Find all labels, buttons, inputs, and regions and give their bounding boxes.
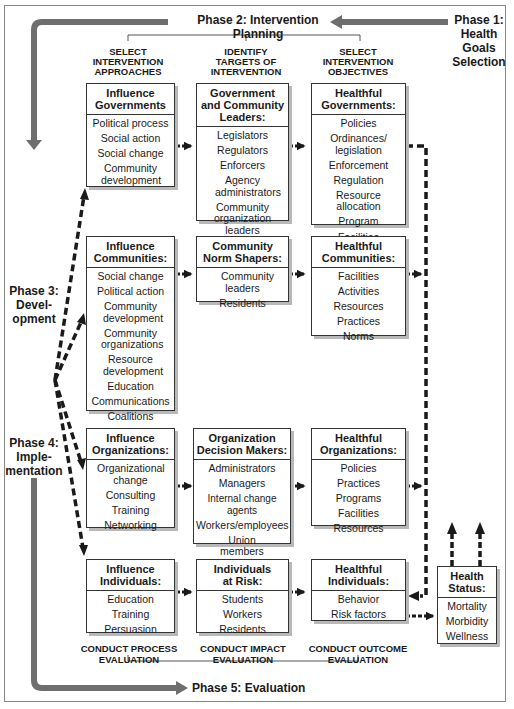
box-health-status: HealthStatus: Mortality Morbidity Wellne…	[437, 566, 497, 644]
box-title: HealthfulOrganizations:	[312, 429, 405, 460]
list-item: Social action	[89, 133, 172, 145]
list-item: Wellness	[440, 631, 494, 643]
list-item: Residents	[199, 624, 286, 636]
list-item: Facilities	[314, 508, 403, 520]
list-item: Consulting	[89, 490, 172, 502]
list-item: Policies	[314, 118, 403, 130]
list-item: Workers	[199, 609, 286, 621]
list-item: Enforcers	[199, 160, 286, 172]
box-title: InfluenceCommunities:	[87, 237, 174, 268]
phase-2-label: Phase 2: Intervention Planning	[183, 13, 333, 41]
footer-process-evaluation: CONDUCT PROCESS EVALUATION	[64, 643, 194, 665]
box-title: HealthStatus:	[438, 567, 496, 598]
list-item: Managers	[196, 478, 288, 490]
list-item: Political process	[89, 118, 172, 130]
footer-outcome-evaluation: CONDUCT OUTCOME EVALUATION	[293, 643, 423, 665]
list-item: Enforcement	[314, 160, 403, 172]
list-item: Coalitions	[89, 411, 172, 423]
column-header-targets: IDENTIFY TARGETS OF INTERVENTION	[191, 47, 301, 77]
list-item: Legislators	[199, 130, 286, 142]
list-item: Internal change agents	[196, 493, 288, 516]
box-gov-community-leaders: Governmentand CommunityLeaders: Legislat…	[196, 83, 289, 221]
phase-4-label: Phase 4: Imple- mentation	[2, 436, 66, 478]
phase-1-line: Phase 1:	[450, 13, 508, 27]
phase-4-line: Phase 4:	[2, 436, 66, 450]
box-title: HealthfulIndividuals:	[312, 560, 405, 591]
list-item: Program	[314, 216, 403, 228]
box-title: HealthfulCommunities:	[312, 237, 405, 268]
column-header-approaches: SELECT INTERVENTION APPROACHES	[73, 47, 183, 77]
list-item: Risk factors	[314, 609, 403, 621]
phase-3-label: Phase 3: Devel- opment	[5, 284, 63, 326]
list-item: Regulators	[199, 145, 286, 157]
box-title: InfluenceGovernments	[87, 84, 174, 115]
box-title: OrganizationDecision Makers:	[194, 429, 290, 460]
footer-line: EVALUATION	[178, 654, 308, 665]
phase-1-label: Phase 1: Health Goals Selection	[450, 13, 508, 69]
list-item: Communications	[89, 396, 172, 408]
footer-line: CONDUCT PROCESS	[64, 643, 194, 654]
list-item: Mortality	[440, 601, 494, 613]
list-item: Organizational change	[89, 463, 172, 486]
box-title: InfluenceOrganizations:	[87, 429, 174, 460]
list-item: Resources	[314, 523, 403, 535]
box-influence-governments: InfluenceGovernments Political process S…	[86, 83, 175, 187]
box-title: HealthfulGovernments:	[312, 84, 405, 115]
list-item: Administrators	[196, 463, 288, 475]
footer-impact-evaluation: CONDUCT IMPACT EVALUATION	[178, 643, 308, 665]
footer-line: CONDUCT OUTCOME	[293, 643, 423, 654]
phase-1-line: Health	[450, 27, 508, 41]
phase-1-line: Goals	[450, 41, 508, 55]
list-item: Training	[89, 609, 172, 621]
list-item: Community leaders	[199, 271, 286, 294]
list-item: Programs	[314, 493, 403, 505]
footer-line: EVALUATION	[64, 654, 194, 665]
list-item: Community development	[89, 301, 172, 324]
box-title: CommunityNorm Shapers:	[197, 237, 288, 268]
list-item: Practices	[314, 478, 403, 490]
box-individuals-at-risk: Individualsat Risk: Students Workers Res…	[196, 559, 289, 633]
box-influence-individuals: InfluenceIndividuals: Education Training…	[86, 559, 175, 633]
vertical-outcome-connector	[406, 146, 426, 596]
column-header-objectives: SELECT INTERVENTION OBJECTIVES	[303, 47, 413, 77]
box-healthful-individuals: HealthfulIndividuals: Behavior Risk fact…	[311, 559, 406, 621]
box-influence-communities: InfluenceCommunities: Social change Poli…	[86, 236, 175, 411]
box-community-norm-shapers: CommunityNorm Shapers: Community leaders…	[196, 236, 289, 302]
box-healthful-governments: HealthfulGovernments: Policies Ordinance…	[311, 83, 406, 225]
list-item: Norms	[314, 331, 403, 343]
list-item: Resource development	[89, 354, 172, 377]
header-line: OBJECTIVES	[303, 67, 413, 77]
phase-3-line: Phase 3:	[5, 284, 63, 298]
list-item: Education	[89, 381, 172, 393]
list-item: Community organization leaders	[199, 202, 286, 237]
list-item: Regulation	[314, 175, 403, 187]
list-item: Networking	[89, 520, 172, 532]
list-item: Social change	[89, 271, 172, 283]
list-item: Training	[89, 505, 172, 517]
phase-1-line: Selection	[450, 55, 508, 69]
phase-5-label: Phase 5: Evaluation	[192, 681, 312, 695]
list-item: Community organizations	[89, 328, 172, 351]
list-item: Political action	[89, 286, 172, 298]
box-healthful-communities: HealthfulCommunities: Facilities Activit…	[311, 236, 406, 336]
list-item: Social change	[89, 148, 172, 160]
health-status-outputs	[452, 532, 480, 566]
arrow-into-individuals	[408, 591, 419, 601]
approach-fan-connectors	[55, 196, 84, 548]
header-line: INTERVENTION	[191, 67, 301, 77]
list-item: Residents	[199, 298, 286, 310]
list-item: Resources	[314, 301, 403, 313]
footer-line: EVALUATION	[293, 654, 423, 665]
box-title: InfluenceIndividuals:	[87, 560, 174, 591]
phase-4-line: mentation	[2, 464, 66, 478]
box-organization-decision-makers: OrganizationDecision Makers: Administrat…	[193, 428, 291, 544]
list-item: Facilities	[314, 271, 403, 283]
list-item: Resource allocation	[314, 190, 403, 213]
list-item: Students	[199, 594, 286, 606]
box-healthful-organizations: HealthfulOrganizations: Policies Practic…	[311, 428, 406, 526]
box-influence-organizations: InfluenceOrganizations: Organizational c…	[86, 428, 175, 528]
list-item: Workers/employees	[196, 520, 288, 532]
box-title: Governmentand CommunityLeaders:	[197, 84, 288, 127]
list-item: Education	[89, 594, 172, 606]
list-item: Agency administrators	[199, 175, 286, 198]
